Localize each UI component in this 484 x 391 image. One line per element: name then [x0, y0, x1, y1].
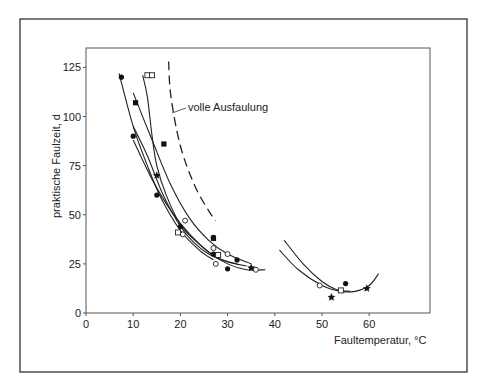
x-axis-label: Faultemperatur,°C	[334, 334, 426, 346]
x-tick-label: 10	[127, 318, 139, 330]
x-axis-unit: °C	[414, 334, 426, 346]
data-point-circle-open	[253, 267, 258, 272]
x-tick-label: 40	[269, 318, 281, 330]
x-tick-label: 30	[221, 318, 233, 330]
y-tick-label: 25	[69, 258, 81, 270]
data-point-circle-filled	[154, 193, 159, 198]
y-axis-label: praktische Faulzeit, d	[50, 114, 62, 218]
data-point-circle-filled	[225, 266, 230, 271]
data-point-circle-open	[225, 252, 230, 257]
fit-curve	[133, 126, 246, 266]
data-point-star	[327, 293, 335, 301]
data-point-square-open	[338, 288, 343, 293]
y-tick-label: 75	[69, 160, 81, 172]
x-tick-label: 20	[174, 318, 186, 330]
data-point-circle-open	[180, 232, 185, 237]
data-point-square-open	[216, 253, 221, 258]
y-tick-label: 0	[75, 307, 81, 319]
data-point-square-open	[150, 73, 155, 78]
data-point-circle-open	[183, 218, 188, 223]
curve-volle-ausfaulung	[169, 61, 216, 220]
data-point-circle-filled	[131, 134, 136, 139]
x-tick-label: 60	[363, 318, 375, 330]
data-point-circle-open	[211, 246, 216, 251]
data-point-square-open	[176, 230, 181, 235]
y-tick-label: 100	[63, 111, 81, 123]
x-tick-label: 50	[316, 318, 328, 330]
data-point-circle-filled	[234, 257, 239, 262]
data-point-circle-filled	[178, 224, 183, 229]
annotation-volle-ausfaulung: volle Ausfaulung	[188, 101, 268, 113]
data-point-square-filled	[211, 236, 216, 241]
data-point-circle-open	[317, 283, 322, 288]
chart-figure: 01020304050600255075100125 praktische Fa…	[0, 0, 484, 391]
plot-area: 01020304050600255075100125	[63, 48, 430, 330]
x-tick-label: 0	[83, 318, 89, 330]
data-point-square-open	[145, 73, 150, 78]
data-point-circle-open	[213, 261, 218, 266]
y-tick-label: 50	[69, 209, 81, 221]
y-tick-label: 125	[63, 61, 81, 73]
data-point-square-filled	[161, 141, 166, 146]
annotation-leader-line	[172, 108, 186, 113]
data-point-circle-filled	[343, 281, 348, 286]
plot-border	[86, 48, 430, 313]
x-axis-label-text: Faultemperatur,	[334, 334, 411, 346]
data-point-circle-filled	[119, 75, 124, 80]
data-point-square-filled	[133, 100, 138, 105]
